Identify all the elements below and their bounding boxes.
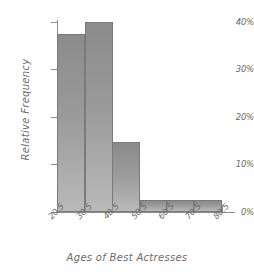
plot-area: 40% 30% 20% 10% 0% 20.5 30.5 40.5 50.5 6… bbox=[0, 0, 254, 278]
bar-20-30 bbox=[57, 34, 85, 212]
y-tick-label-30: 30% bbox=[230, 64, 254, 74]
bar-30-40 bbox=[85, 22, 113, 212]
y-tick-label-20: 20% bbox=[230, 112, 254, 122]
x-axis-title: Ages of Best Actresses bbox=[0, 252, 254, 263]
y-axis-title: Relative Frequency bbox=[20, 30, 31, 190]
y-tick-label-0: 0% bbox=[230, 207, 254, 217]
bar-40-50 bbox=[112, 142, 140, 212]
y-tick-40 bbox=[51, 22, 57, 23]
histogram-chart: 40% 30% 20% 10% 0% 20.5 30.5 40.5 50.5 6… bbox=[0, 0, 254, 278]
y-tick-label-40: 40% bbox=[230, 17, 254, 27]
y-tick-label-10: 10% bbox=[230, 159, 254, 169]
